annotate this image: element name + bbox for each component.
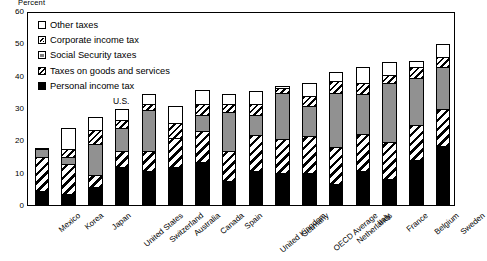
bar-segment-personal-income-tax xyxy=(223,182,236,206)
bar-segment-taxes-on-goods-and-services xyxy=(357,135,370,172)
bar-segment-corporate-income-tax xyxy=(383,76,396,84)
bar-japan xyxy=(88,117,103,206)
bar-segment-personal-income-tax xyxy=(410,161,423,206)
bar-segment-personal-income-tax xyxy=(357,172,370,206)
x-label-japan: Japan xyxy=(110,211,132,232)
bar-segment-social-security-taxes xyxy=(303,107,316,137)
bar-segment-corporate-income-tax xyxy=(116,121,129,129)
bar-segment-social-security-taxes xyxy=(410,79,423,126)
bar-segment-social-security-taxes xyxy=(383,84,396,143)
bar-segment-social-security-taxes xyxy=(250,116,263,135)
bar-segment-personal-income-tax xyxy=(62,195,75,206)
bar-italy xyxy=(356,67,371,206)
bar-segment-social-security-taxes xyxy=(437,68,450,110)
bar-segment-other-taxes xyxy=(303,84,316,97)
bar-segment-personal-income-tax xyxy=(116,168,129,206)
bar-segment-taxes-on-goods-and-services xyxy=(62,165,75,195)
bar-segment-social-security-taxes xyxy=(330,94,343,149)
bar-segment-social-security-taxes xyxy=(223,113,236,151)
bar-segment-taxes-on-goods-and-services xyxy=(223,152,236,182)
x-axis-category-labels: MexicoKoreaJapanUnited StatesSwitzerland… xyxy=(27,208,455,261)
legend-item-social-security-taxes: Social Security taxes xyxy=(38,48,248,63)
bar-oecd-average xyxy=(302,83,317,206)
legend-swatch-icon xyxy=(38,36,46,44)
bar-segment-social-security-taxes xyxy=(89,145,102,175)
bar-segment-social-security-taxes xyxy=(196,116,209,132)
bar-france xyxy=(382,62,397,206)
bar-segment-taxes-on-goods-and-services xyxy=(89,176,102,189)
bar-mexico xyxy=(35,148,50,206)
bar-segment-other-taxes xyxy=(116,110,129,121)
bar-segment-personal-income-tax xyxy=(196,163,209,206)
bar-segment-corporate-income-tax xyxy=(250,105,263,116)
bar-segment-personal-income-tax xyxy=(36,192,49,206)
bar-segment-other-taxes xyxy=(143,95,156,105)
bar-segment-taxes-on-goods-and-services xyxy=(276,140,289,174)
legend-swatch-icon xyxy=(38,51,46,59)
bar-segment-corporate-income-tax xyxy=(62,150,75,158)
bar-segment-taxes-on-goods-and-services xyxy=(303,137,316,174)
bar-belgium xyxy=(409,61,424,207)
x-label-canada: Canada xyxy=(218,211,245,236)
bar-segment-corporate-income-tax xyxy=(303,97,316,107)
bar-segment-social-security-taxes xyxy=(36,150,49,158)
legend-item-taxes-on-goods-and-services: Taxes on goods and services xyxy=(38,63,248,78)
x-label-korea: Korea xyxy=(83,211,105,232)
bar-segment-personal-income-tax xyxy=(169,168,182,206)
bar-segment-personal-income-tax xyxy=(89,188,102,206)
y-axis-tick-0: 0 xyxy=(2,202,24,210)
legend-item-other-taxes: Other taxes xyxy=(38,17,248,32)
x-label-spain: Spain xyxy=(243,211,264,231)
chart-legend: Other taxesCorporate income taxSocial Se… xyxy=(38,17,248,94)
bar-segment-other-taxes xyxy=(330,73,343,83)
bar-segment-taxes-on-goods-and-services xyxy=(116,152,129,168)
bar-segment-corporate-income-tax xyxy=(437,58,450,68)
legend-swatch-icon xyxy=(38,21,46,29)
y-axis-tick-10: 10 xyxy=(2,170,24,178)
y-axis-tick-50: 50 xyxy=(2,40,24,48)
bar-segment-taxes-on-goods-and-services xyxy=(250,136,263,173)
bar-segment-personal-income-tax xyxy=(143,172,156,206)
bar-segment-corporate-income-tax xyxy=(410,68,423,79)
bar-segment-taxes-on-goods-and-services xyxy=(410,126,423,161)
bar-segment-social-security-taxes xyxy=(357,95,370,135)
bar-switzerland xyxy=(142,94,157,206)
bar-segment-other-taxes xyxy=(437,45,450,58)
bar-germany xyxy=(275,86,290,206)
bar-segment-corporate-income-tax xyxy=(223,105,236,113)
y-axis-tick-20: 20 xyxy=(2,137,24,145)
y-axis-tick-60: 60 xyxy=(2,8,24,16)
bar-segment-corporate-income-tax xyxy=(330,82,343,93)
bar-united-kingdom xyxy=(249,91,264,206)
bar-segment-other-taxes xyxy=(357,68,370,84)
bar-segment-taxes-on-goods-and-services xyxy=(143,152,156,173)
legend-item-label: Other taxes xyxy=(50,20,98,30)
legend-swatch-icon xyxy=(38,82,46,90)
x-label-sweden: Sweden xyxy=(459,211,487,236)
legend-item-label: Corporate income tax xyxy=(50,35,139,45)
legend-item-label: Social Security taxes xyxy=(50,50,136,60)
bar-segment-other-taxes xyxy=(169,107,182,125)
bar-segment-taxes-on-goods-and-services xyxy=(169,139,182,168)
annotation-us-marker: U.S. xyxy=(113,96,130,106)
x-label-mexico: Mexico xyxy=(57,211,82,234)
bar-segment-corporate-income-tax xyxy=(196,105,209,116)
bar-segment-taxes-on-goods-and-services xyxy=(383,143,396,180)
bar-segment-personal-income-tax xyxy=(383,180,396,206)
y-axis-tick-30: 30 xyxy=(2,105,24,113)
bar-segment-taxes-on-goods-and-services xyxy=(36,158,49,191)
bar-segment-social-security-taxes xyxy=(143,111,156,151)
bar-segment-taxes-on-goods-and-services xyxy=(196,132,209,162)
bar-korea xyxy=(61,128,76,206)
legend-item-corporate-income-tax: Corporate income tax xyxy=(38,32,248,47)
legend-item-label: Taxes on goods and services xyxy=(50,66,170,76)
bar-spain xyxy=(222,94,237,206)
bar-united-states xyxy=(115,109,130,206)
bar-segment-other-taxes xyxy=(383,63,396,76)
bar-segment-other-taxes xyxy=(62,129,75,150)
legend-swatch-icon xyxy=(38,67,46,75)
bar-segment-other-taxes xyxy=(223,95,236,105)
x-label-belgium: Belgium xyxy=(432,211,460,236)
bar-segment-personal-income-tax xyxy=(276,174,289,206)
